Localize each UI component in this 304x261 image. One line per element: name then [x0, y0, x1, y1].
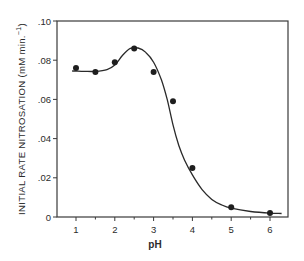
y-tick-label: .10 — [38, 16, 51, 27]
data-point — [112, 59, 118, 65]
x-tick-label: 2 — [112, 224, 117, 235]
x-tick-label: 3 — [151, 224, 156, 235]
x-axis: 123456 — [73, 217, 272, 235]
data-point — [170, 98, 176, 104]
data-point — [151, 69, 157, 75]
data-point — [92, 69, 98, 75]
y-tick-label: .02 — [38, 172, 51, 183]
data-point — [73, 65, 79, 71]
y-axis-title-close: ) — [16, 23, 27, 27]
y-tick-label: .06 — [38, 94, 51, 105]
x-tick-label: 6 — [267, 224, 272, 235]
y-axis-title-exponent: −1 — [15, 27, 22, 36]
fitted-curve — [72, 48, 282, 214]
y-tick-label: 0 — [46, 212, 51, 223]
x-tick-label: 5 — [229, 224, 234, 235]
plot-frame — [57, 21, 288, 217]
x-axis-title: pH — [148, 239, 161, 250]
y-tick-label: .04 — [38, 133, 51, 144]
data-point — [189, 165, 195, 171]
plot-border — [57, 21, 288, 217]
x-tick-label: 1 — [73, 224, 78, 235]
y-axis-title-main: INITIAL RATE NITROSATION (mM min. — [16, 35, 27, 215]
x-tick-label: 4 — [190, 224, 195, 235]
data-point — [131, 45, 137, 51]
data-point — [267, 210, 273, 216]
y-tick-label: .08 — [38, 55, 51, 66]
y-axis-title: INITIAL RATE NITROSATION (mM min.−1) — [15, 23, 27, 215]
data-point — [228, 204, 234, 210]
y-axis: 0.02.04.06.08.10 — [38, 16, 57, 223]
chart: 0.02.04.06.08.10 123456 pH INITIAL RATE … — [0, 0, 304, 261]
fitted-curve-path — [72, 48, 282, 214]
